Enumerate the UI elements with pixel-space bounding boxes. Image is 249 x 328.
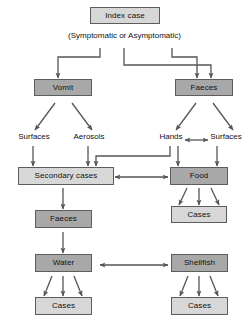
- node-vomit[interactable]: Vomit: [34, 79, 92, 96]
- edge-water-to-cases-c: [74, 276, 82, 296]
- edge-index-to-vomit: [58, 48, 100, 78]
- edge-shellfish-to-cases-c: [210, 276, 218, 296]
- label-aerosols: Aerosols: [60, 133, 118, 141]
- node-cases-food[interactable]: Cases: [171, 206, 227, 223]
- edge-index-to-faeces-right: [172, 48, 197, 78]
- label-hands: Hands: [150, 133, 192, 141]
- label-surfaces-right: Surfaces: [203, 133, 249, 141]
- node-cases-shellfish[interactable]: Cases: [171, 297, 228, 315]
- edge-vomit-to-aerosols: [72, 103, 92, 130]
- caption-symptomatic: (Symptomatic or Asymptomatic): [0, 32, 249, 40]
- node-water[interactable]: Water: [35, 254, 92, 272]
- node-food[interactable]: Food: [170, 167, 228, 185]
- edge-food-to-cases-c: [211, 188, 219, 205]
- node-secondary-cases[interactable]: Secondary cases: [18, 167, 114, 185]
- edge-faeces-to-surfaces: [213, 103, 233, 130]
- edge-vomit-to-surfaces: [35, 103, 55, 130]
- flowchart-diagram: Index case (Symptomatic or Asymptomatic)…: [0, 0, 249, 328]
- node-faeces-lower[interactable]: Faeces: [35, 210, 92, 228]
- edge-water-to-cases-a: [44, 276, 52, 296]
- node-faeces-top[interactable]: Faeces: [175, 79, 233, 96]
- edge-index-to-faeces-middle: [124, 48, 211, 78]
- edge-shellfish-to-cases-a: [180, 276, 188, 296]
- edge-food-to-cases-a: [179, 188, 187, 205]
- node-index-case[interactable]: Index case: [90, 7, 160, 24]
- edge-faeces-to-hands: [176, 103, 196, 130]
- edge-layer: [0, 0, 249, 328]
- label-surfaces-left: Surfaces: [4, 133, 64, 141]
- node-cases-water[interactable]: Cases: [35, 297, 92, 315]
- node-shellfish[interactable]: Shellfish: [171, 254, 228, 272]
- edge-hands-to-secondary: [96, 146, 170, 166]
